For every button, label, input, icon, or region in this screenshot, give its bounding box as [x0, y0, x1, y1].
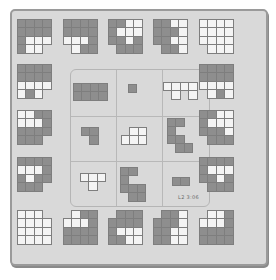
- tile-r2-c1[interactable]: [17, 64, 51, 98]
- dark-cell: [88, 235, 98, 245]
- tile-r1-c2[interactable]: [63, 19, 97, 53]
- status-label: L2 3:06: [178, 194, 199, 200]
- tile-r4-c1[interactable]: [17, 157, 51, 191]
- piece-dark-s[interactable]: [167, 118, 193, 152]
- light-cell: [138, 135, 148, 145]
- dark-cell: [137, 192, 147, 202]
- empty-cell: [42, 44, 52, 54]
- dark-cell: [89, 135, 99, 145]
- tile-r5-c4[interactable]: [153, 210, 187, 244]
- piece-light-t[interactable]: [163, 82, 197, 99]
- tile-r5-c2[interactable]: [63, 210, 97, 244]
- tile-r5-c3[interactable]: [108, 210, 142, 244]
- tile-r5-c1[interactable]: [17, 210, 51, 244]
- dark-cell: [98, 91, 108, 101]
- empty-cell: [97, 181, 107, 191]
- light-cell: [224, 44, 234, 54]
- light-cell: [133, 235, 143, 245]
- tile-r5-c5[interactable]: [199, 210, 233, 244]
- piece-light-step[interactable]: [121, 127, 147, 144]
- empty-cell: [42, 89, 52, 99]
- piece-dark-l[interactable]: [81, 127, 98, 144]
- tile-r3-c1[interactable]: [17, 110, 51, 144]
- tile-r3-c5[interactable]: [199, 110, 233, 144]
- dark-cell: [184, 143, 194, 153]
- empty-cell: [42, 135, 52, 145]
- dark-cell: [224, 235, 234, 245]
- inner-divider: [116, 70, 117, 206]
- light-cell: [224, 89, 234, 99]
- piece-small-rect[interactable]: [172, 177, 189, 186]
- dark-cell: [133, 44, 143, 54]
- light-cell: [42, 235, 52, 245]
- dark-cell: [224, 182, 234, 192]
- light-cell: [178, 44, 188, 54]
- piece-single[interactable]: [128, 84, 137, 93]
- light-cell: [188, 90, 198, 100]
- tile-r1-c5[interactable]: [199, 19, 233, 53]
- tile-r1-c4[interactable]: [153, 19, 187, 53]
- tile-r1-c3[interactable]: [108, 19, 142, 53]
- dark-cell: [224, 135, 234, 145]
- dark-cell: [128, 84, 138, 94]
- piece-dark-z[interactable]: [120, 167, 146, 201]
- tile-r1-c1[interactable]: [17, 19, 51, 53]
- dark-cell: [180, 177, 190, 187]
- piece-light-t-small[interactable]: [80, 173, 106, 190]
- dark-cell: [88, 44, 98, 54]
- empty-cell: [42, 182, 52, 192]
- tile-r4-c5[interactable]: [199, 157, 233, 191]
- inner-divider: [71, 161, 209, 162]
- tile-r2-c5[interactable]: [199, 64, 233, 98]
- light-cell: [178, 235, 188, 245]
- piece-rectangle[interactable]: [73, 83, 107, 100]
